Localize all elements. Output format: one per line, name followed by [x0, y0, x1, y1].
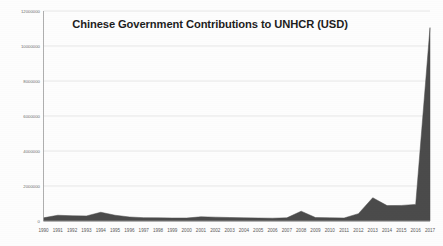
x-axis-tick-label: 1998: [153, 228, 164, 233]
x-axis-tick-label: 1992: [67, 228, 78, 233]
x-axis-tick-label: 1995: [110, 228, 121, 233]
x-axis-tick-label: 1991: [53, 228, 64, 233]
x-axis-tick-label: 2010: [325, 228, 336, 233]
x-axis-tick-labels: 1990199119921993199419951996199719981999…: [38, 228, 435, 233]
area-series-fill: [44, 28, 431, 221]
x-axis-tick-label: 2013: [368, 228, 379, 233]
y-axis-tick-label: 4000000: [23, 149, 40, 154]
x-axis-tick-label: 2004: [239, 228, 250, 233]
x-axis-tick-label: 2014: [382, 228, 393, 233]
y-axis-tick-label: 6000000: [23, 114, 40, 119]
y-axis-tick-labels: 0200000040000006000000800000010000000120…: [21, 9, 41, 224]
x-axis-tick-label: 2007: [282, 228, 293, 233]
x-axis-tick-label: 1999: [167, 228, 178, 233]
x-axis-tick-label: 1997: [139, 228, 150, 233]
x-axis-tick-label: 2008: [296, 228, 307, 233]
y-axis-tick-label: 8000000: [23, 79, 40, 84]
y-axis-tick-label: 12000000: [21, 9, 41, 14]
y-axis-tick-label: 10000000: [21, 44, 41, 49]
x-axis-tick-label: 2009: [310, 228, 321, 233]
chart-container: Chinese Government Contributions to UNHC…: [0, 0, 443, 246]
x-axis-tick-label: 2015: [396, 228, 407, 233]
x-axis-tick-label: 1993: [81, 228, 92, 233]
x-axis-tick-label: 2017: [425, 228, 436, 233]
x-axis-tick-label: 2011: [339, 228, 349, 233]
x-axis-tick-label: 2016: [411, 228, 422, 233]
gridlines: [44, 11, 431, 221]
x-axis-tick-label: 1996: [124, 228, 135, 233]
x-axis-tick-label: 2002: [210, 228, 221, 233]
x-axis-tick-label: 2012: [353, 228, 364, 233]
x-axis-tick-label: 2005: [253, 228, 264, 233]
x-axis-tick-label: 1990: [38, 228, 49, 233]
y-axis-tick-label: 0: [38, 219, 41, 224]
x-axis-tick-label: 1994: [96, 228, 107, 233]
x-axis-tick-label: 2000: [182, 228, 193, 233]
y-axis-tick-label: 2000000: [23, 184, 40, 189]
x-axis-tick-label: 2003: [224, 228, 235, 233]
x-axis-tick-label: 2001: [196, 228, 207, 233]
area-chart-plot: 0200000040000006000000800000010000000120…: [0, 0, 443, 246]
x-axis-tick-label: 2006: [267, 228, 278, 233]
